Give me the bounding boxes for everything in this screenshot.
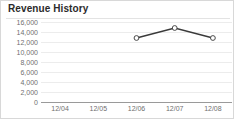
x-axis-labels: 12/0412/0512/0612/0712/08 (41, 105, 232, 117)
x-axis-tick-label: 12/05 (90, 105, 108, 112)
revenue-history-chart: 16,00014,00012,00010,0008,0006,0004,0002… (1, 1, 234, 119)
y-axis-tick-label: 10,000 (2, 49, 38, 56)
revenue-history-panel: Revenue History 16,00014,00012,00010,000… (0, 0, 234, 119)
y-axis-labels: 16,00014,00012,00010,0008,0006,0004,0002… (1, 22, 38, 102)
data-point-marker[interactable] (134, 36, 139, 41)
y-axis-tick-label: 4,000 (2, 79, 38, 86)
y-axis-tick-label: 12,000 (2, 39, 38, 46)
y-axis-tick-label: 6,000 (2, 69, 38, 76)
revenue-series (41, 22, 232, 102)
y-axis-tick-label: 16,000 (2, 19, 38, 26)
gridline (41, 102, 232, 103)
x-axis-tick-label: 12/06 (128, 105, 146, 112)
y-axis-tick-label: 8,000 (2, 59, 38, 66)
y-axis-tick-label: 14,000 (2, 29, 38, 36)
y-axis-tick-label: 2,000 (2, 89, 38, 96)
plot-area (41, 22, 232, 102)
x-axis-tick-label: 12/08 (204, 105, 222, 112)
data-point-marker[interactable] (172, 26, 177, 31)
x-axis-tick-label: 12/07 (166, 105, 184, 112)
y-axis-tick-label: 0 (2, 99, 38, 106)
data-point-marker[interactable] (211, 36, 216, 41)
x-axis-tick-label: 12/04 (51, 105, 69, 112)
